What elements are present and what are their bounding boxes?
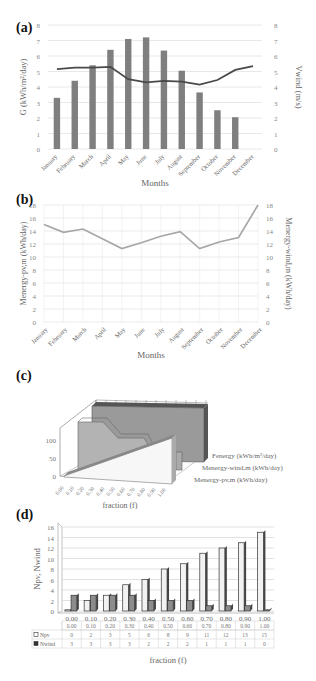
- x-tick-label: 0.10: [64, 485, 75, 496]
- table-cell-npv: 0: [70, 632, 73, 638]
- bar-npv: [238, 543, 244, 611]
- y-tick-label: 4: [51, 587, 55, 595]
- table-cell-npv: 9: [186, 632, 189, 638]
- table-cell-npv: 6: [147, 632, 150, 638]
- table-cell-npv: 3: [109, 632, 112, 638]
- chart-d: 02468101214160.000.100.200.300.400.500.6…: [0, 505, 316, 681]
- x-tick-label: June: [133, 326, 146, 339]
- bar-nwind-side: [135, 593, 137, 611]
- bar-G: [107, 50, 113, 149]
- table-header-cell: 0.90: [240, 623, 250, 629]
- y-tick-label: 6: [51, 577, 55, 585]
- y-axis-title: G (kWh/m²/day): [18, 59, 28, 116]
- y2-tick-label: 12: [266, 241, 274, 249]
- table-header-cell: 0.40: [144, 623, 154, 629]
- x-tick-label: March: [77, 152, 94, 169]
- y-tick-label: 2: [37, 115, 41, 123]
- x-tick-label: 0.60: [115, 486, 126, 497]
- bar-nwind: [264, 610, 270, 611]
- bar-nwind-side: [96, 593, 98, 611]
- x-tick-label: May: [116, 152, 130, 166]
- bar-nwind: [167, 601, 173, 612]
- bar-npv: [258, 532, 264, 611]
- y-tick-label: 16: [47, 524, 55, 532]
- bar-nwind-side: [154, 599, 156, 612]
- z-tick-label: 50: [49, 455, 57, 463]
- bar-npv: [103, 595, 109, 611]
- y2-tick-label: 14: [266, 228, 274, 236]
- y-axis-title: Npv, Nwind: [32, 548, 42, 590]
- table-header-cell: 0.50: [163, 623, 173, 629]
- y-tick-label: 0: [33, 319, 37, 327]
- chart-a: 001122334455667788JanuaryFebruaryMarchAp…: [0, 0, 316, 190]
- y2-tick-label: 8: [266, 267, 270, 275]
- x-tick-label: July: [153, 325, 166, 338]
- y-tick-label: 8: [37, 22, 41, 30]
- legend-label-nwind: Nwind: [40, 641, 55, 647]
- chart-b: 002244668810101212141416161818JanuaryFeb…: [0, 190, 316, 360]
- y2-tick-label: 2: [266, 306, 270, 314]
- bar-nwind-side: [212, 604, 214, 611]
- y-tick-label: 4: [33, 293, 37, 301]
- bar-nwind: [245, 606, 251, 611]
- panel-d: (d) 02468101214160.000.100.200.300.400.5…: [0, 505, 316, 681]
- table-header-cell: 0.20: [105, 623, 115, 629]
- legend-label-npv: Npv: [40, 632, 50, 638]
- x-tick-label: 0.40: [95, 485, 106, 496]
- series-menergy-pv-side: [172, 434, 176, 484]
- bar-nwind: [225, 606, 231, 611]
- x-tick-label: February: [55, 152, 77, 174]
- y2-tick-label: 0: [274, 146, 278, 154]
- x-tick-label: February: [47, 325, 69, 347]
- x-tick-label: December: [239, 325, 263, 349]
- x-tick-label: 0.80: [136, 486, 147, 497]
- bar-G: [214, 110, 220, 149]
- x-tick-label: April: [92, 326, 107, 341]
- y-tick-label: 8: [51, 566, 55, 574]
- panel-b-label: (b): [16, 192, 33, 208]
- y2-tick-label: 1: [274, 131, 278, 139]
- x-axis-title: Months: [141, 178, 169, 188]
- y-tick-label: 3: [37, 100, 41, 108]
- bar-npv: [142, 580, 148, 612]
- table-cell-npv: 12: [223, 632, 229, 638]
- y2-axis-title: Vwind (m/s): [294, 65, 304, 108]
- y2-tick-label: 0: [266, 319, 270, 327]
- bar-npv: [84, 601, 90, 612]
- y-tick-label: 10: [29, 254, 37, 262]
- series-menergy-wind-end: [176, 452, 182, 470]
- y-tick-label: 0: [37, 146, 41, 154]
- bar-G: [72, 81, 78, 149]
- y-tick-label: 1: [37, 131, 41, 139]
- y-tick-label: 16: [29, 215, 37, 223]
- x-tick-label: March: [71, 325, 88, 342]
- y2-axis-title: Menergy-wind,m (kWh/day): [284, 217, 293, 310]
- bar-npv-side: [263, 530, 265, 611]
- bar-nwind-side: [231, 604, 233, 611]
- bar-nwind-side: [77, 593, 79, 611]
- x-tick-label: September: [180, 325, 205, 350]
- bar-nwind: [187, 601, 193, 612]
- side-wall: [58, 523, 62, 613]
- bar-G: [232, 117, 238, 149]
- line-vwind: [57, 66, 253, 85]
- bar-nwind: [129, 595, 135, 611]
- y-tick-label: 6: [37, 53, 41, 61]
- x-tick-label: 0.20: [74, 485, 85, 496]
- y-tick-label: 14: [47, 535, 55, 543]
- panel-a-label: (a): [16, 20, 32, 36]
- bar-nwind-side: [173, 599, 175, 612]
- y2-tick-label: 6: [274, 53, 278, 61]
- bar-nwind-side: [192, 599, 194, 612]
- x-tick-label: April: [97, 153, 112, 168]
- y-tick-label: 6: [33, 280, 37, 288]
- bar-nwind-side: [115, 593, 117, 611]
- y2-tick-label: 8: [274, 22, 278, 30]
- bar-nwind: [71, 595, 77, 611]
- table-cell-nwind: 1: [205, 641, 208, 647]
- table-cell-nwind: 2: [186, 641, 189, 647]
- y2-tick-label: 16: [266, 215, 274, 223]
- bar-npv-side: [244, 541, 246, 611]
- table-cell-npv: 5: [128, 632, 131, 638]
- y-tick-label: 5: [37, 69, 41, 77]
